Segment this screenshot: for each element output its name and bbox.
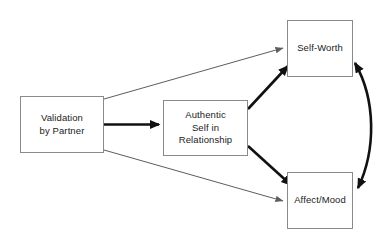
node-self-worth-label: Self-Worth [295, 42, 345, 55]
node-self-worth: Self-Worth [287, 20, 353, 77]
node-validation-by-partner-label: Validation by Partner [38, 112, 87, 137]
node-affect-mood-label: Affect/Mood [292, 194, 348, 207]
edge-authentic-to-selfworth [248, 66, 288, 109]
edge-selfworth-affectmood-correlation [355, 63, 371, 188]
edge-validation-to-selfworth [104, 48, 283, 99]
edge-validation-to-affectmood [104, 150, 283, 201]
path-diagram: Validation by Partner Authentic Self in … [0, 0, 385, 245]
node-authentic-self-in-relationship-label: Authentic Self in Relationship [177, 109, 234, 147]
edge-authentic-to-affectmood [248, 146, 291, 185]
node-validation-by-partner: Validation by Partner [20, 96, 104, 153]
node-affect-mood: Affect/Mood [287, 172, 353, 229]
node-authentic-self-in-relationship: Authentic Self in Relationship [163, 100, 248, 156]
